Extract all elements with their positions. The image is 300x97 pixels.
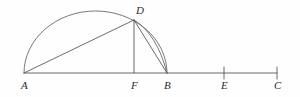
point-label-a: A: [20, 79, 28, 91]
segment-ad: [24, 20, 134, 73]
point-label-d: D: [135, 4, 144, 16]
geometry-figure: A F B E C D: [0, 0, 300, 97]
geometry-canvas: A F B E C D: [0, 0, 300, 97]
point-label-e: E: [220, 79, 228, 91]
point-label-b: B: [164, 79, 171, 91]
point-label-c: C: [274, 79, 282, 91]
arc-semicircle-ab: [24, 11, 167, 73]
segment-db: [134, 20, 167, 73]
point-label-f: F: [130, 79, 138, 91]
